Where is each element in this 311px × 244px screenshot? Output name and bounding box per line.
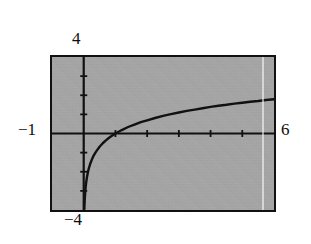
plot-window: [50, 55, 276, 212]
x-axis-min-label: −1: [18, 121, 36, 138]
y-axis-max-label: 4: [72, 30, 81, 47]
logarithm-graph-figure: 4 −4 −1 6: [0, 0, 311, 244]
log-curve: [84, 99, 274, 208]
x-axis-max-label: 6: [281, 121, 290, 138]
plot-canvas: [52, 57, 274, 210]
y-axis-min-label: −4: [64, 211, 82, 228]
